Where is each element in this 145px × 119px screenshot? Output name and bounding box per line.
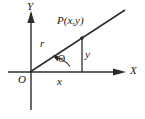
y-axis-label: Y <box>27 1 33 12</box>
origin-label: O <box>18 74 26 85</box>
y-axis-arrowhead <box>27 11 34 23</box>
x-axis-arrowhead <box>113 68 126 75</box>
point-p-label: P(x,y) <box>57 15 84 26</box>
polar-coordinate-diagram: Y X O P(x,y) r x y Θ <box>0 0 145 119</box>
angle-theta-label: Θ <box>58 54 65 64</box>
radius-label: r <box>40 38 44 49</box>
x-component-label: x <box>57 76 62 87</box>
y-component-label: y <box>85 49 90 60</box>
x-axis-label: X <box>130 65 137 76</box>
point-p-marker <box>80 36 84 40</box>
